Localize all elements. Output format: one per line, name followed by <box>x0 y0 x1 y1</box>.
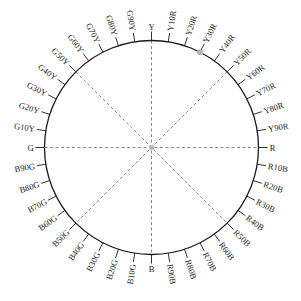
hue-label-r80b: R80B <box>183 258 199 280</box>
hue-label-b20g: B20G <box>104 258 120 281</box>
hue-label-g70y: G70Y <box>84 21 102 44</box>
hue-label-y90r: Y90R <box>267 121 289 134</box>
tick-b50g <box>69 223 75 229</box>
hue-label-r40b: R40B <box>244 213 266 233</box>
hue-circle-diagram: YY10RY20RY30RY40RY50RY60RY70RY80RY90RRR1… <box>0 0 301 301</box>
tick-y80r <box>253 112 262 115</box>
marker-dot-icon <box>197 49 203 55</box>
hue-label-y10r: Y10R <box>165 10 178 32</box>
hue-label-r90b: R90B <box>165 263 178 285</box>
hue-label-b40g: B40G <box>66 240 86 263</box>
center-point-icon <box>149 145 154 150</box>
hue-label-b10g: B10G <box>125 263 138 285</box>
tick-b20g <box>116 249 119 258</box>
hue-label-y60r: Y60R <box>244 62 267 82</box>
tick-y70r <box>247 95 255 99</box>
tick-b30g <box>99 243 103 251</box>
tick-y50r <box>227 65 233 71</box>
hue-label-y40r: Y40R <box>217 32 237 55</box>
hue-label-g30y: G30Y <box>25 80 48 98</box>
hue-label-r: R <box>270 143 276 153</box>
tick-y90r <box>257 129 266 130</box>
tick-g90y <box>133 33 134 42</box>
hue-label-b50g: B50G <box>50 227 72 249</box>
tick-r60b <box>214 234 219 241</box>
tick-g40y <box>58 79 65 84</box>
tick-g20y <box>41 112 50 115</box>
hue-label-r10b: R10B <box>267 161 289 174</box>
tick-g60y <box>83 54 88 61</box>
tick-g80y <box>116 37 119 46</box>
hue-label-g10y: G10Y <box>13 121 35 134</box>
tick-r40b <box>238 210 245 215</box>
tick-g10y <box>37 129 46 130</box>
hue-label-g40y: G40Y <box>36 62 59 82</box>
hue-label-y: Y <box>148 22 154 32</box>
tick-b40g <box>83 234 88 241</box>
tick-y20r <box>185 37 188 46</box>
tick-y60r <box>238 79 245 84</box>
tick-b70g <box>48 196 56 200</box>
hue-label-g90y: G90Y <box>125 9 138 31</box>
hue-label-r20b: R20B <box>262 179 284 195</box>
hue-label-g20y: G20Y <box>18 100 41 116</box>
hue-label-r50b: R50B <box>231 227 252 248</box>
hue-label-y70r: Y70R <box>254 80 277 98</box>
hue-label-g50y: G50Y <box>50 46 72 68</box>
tick-y10r <box>168 33 169 42</box>
hue-label-r70b: R70B <box>201 250 219 273</box>
hue-label-b30g: B30G <box>84 250 102 273</box>
tick-r50b <box>227 223 233 229</box>
tick-g70y <box>99 44 103 52</box>
hue-label-b: B <box>149 264 155 274</box>
hue-label-b70g: B70G <box>26 197 49 215</box>
hue-label-r30b: R30B <box>254 197 277 215</box>
tick-g30y <box>48 95 56 99</box>
tick-g50y <box>69 65 75 71</box>
hue-label-y80r: Y80R <box>262 100 285 116</box>
hue-label-g: G <box>27 143 33 153</box>
hue-label-b60g: B60G <box>36 213 59 233</box>
tick-r90b <box>168 253 169 262</box>
tick-r70b <box>200 243 204 251</box>
hue-label-y30r: Y30R <box>201 22 219 45</box>
tick-r20b <box>253 181 262 184</box>
tick-b10g <box>133 253 134 262</box>
hue-label-g80y: G80Y <box>104 14 120 37</box>
hue-label-r60b: R60B <box>217 240 237 262</box>
hue-label-b90g: B90G <box>14 161 36 174</box>
tick-b60g <box>58 210 65 215</box>
hue-label-y50r: Y50R <box>231 46 253 68</box>
tick-r30b <box>247 196 255 200</box>
hue-label-y20r: Y20R <box>183 14 199 37</box>
hue-label-g60y: G60Y <box>66 32 86 55</box>
tick-b80g <box>41 181 50 184</box>
tick-y40r <box>214 54 219 61</box>
tick-r10b <box>257 164 266 165</box>
tick-r80b <box>185 249 188 258</box>
hue-label-b80g: B80G <box>18 179 41 195</box>
tick-b90g <box>37 164 46 165</box>
